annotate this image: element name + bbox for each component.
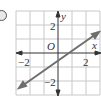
coordinate-plane: y x O −2 2 2 −2 — [0, 0, 101, 103]
y-tick-2: 2 — [50, 20, 56, 32]
y-axis-label: y — [60, 10, 66, 22]
y-tick-neg2: −2 — [44, 76, 56, 88]
x-tick-neg2: −2 — [18, 56, 30, 68]
x-axis-label: x — [91, 39, 97, 51]
axes — [16, 11, 101, 96]
x-tick-2: 2 — [83, 56, 89, 68]
origin-label: O — [47, 40, 55, 52]
y-axis-up-arrow-icon — [56, 11, 60, 17]
x-axis-left-arrow-icon — [16, 51, 22, 55]
